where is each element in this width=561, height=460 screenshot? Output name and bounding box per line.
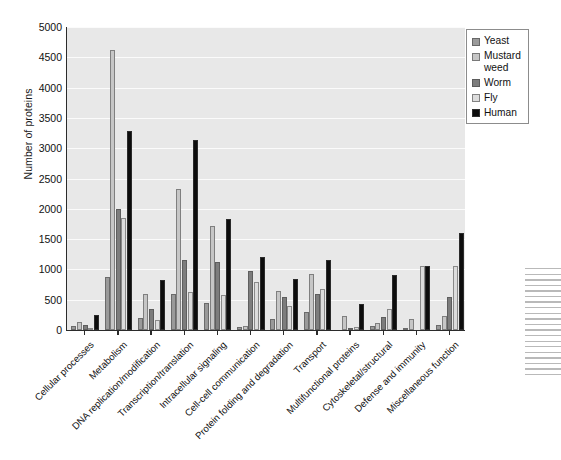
bar (116, 209, 121, 330)
bar (436, 325, 441, 330)
bar (77, 322, 82, 330)
bar (453, 266, 458, 330)
bar (88, 328, 93, 330)
legend-label: Human (484, 107, 517, 119)
bar (160, 280, 165, 330)
bar-series-container (67, 27, 465, 330)
x-tick-label: Transport (291, 339, 328, 376)
y-axis-tick-labels: 0500100015002000250030003500400045005000 (16, 20, 62, 340)
legend-item[interactable]: Fly (472, 92, 521, 104)
x-tick-mark (150, 331, 151, 335)
bar (276, 291, 281, 330)
bar (248, 271, 253, 330)
chart-legend: YeastMustard weedWormFlyHuman (466, 29, 529, 124)
x-tick-mark (217, 331, 218, 335)
chart-figure: Number of proteins 050010001500200025003… (0, 0, 561, 460)
bar (270, 319, 275, 330)
bar (176, 189, 181, 330)
legend-swatch-icon (472, 79, 480, 87)
bar (260, 257, 265, 330)
x-tick-label: Miscellaneous function (384, 339, 460, 415)
bar-group (270, 27, 297, 330)
x-tick-label: Protein folding and degradation (193, 339, 295, 441)
x-tick-label: Defense and immunity (352, 339, 427, 414)
legend-item[interactable]: Human (472, 107, 521, 119)
bar (182, 260, 187, 330)
legend-label: Mustard weed (484, 50, 521, 73)
x-tick-label: Cell-cell communication (182, 339, 261, 418)
x-tick-label: Intracellular signaling (157, 339, 229, 411)
legend-item[interactable]: Yeast (472, 35, 521, 47)
legend-swatch-icon (472, 38, 480, 46)
x-tick-mark (250, 331, 251, 335)
legend-item[interactable]: Worm (472, 77, 521, 89)
bar (110, 50, 115, 330)
bar (420, 266, 425, 330)
bar-group (171, 27, 198, 330)
bar (105, 277, 110, 330)
y-tick-label: 1500 (16, 233, 62, 245)
bar (375, 323, 380, 330)
bar-group (403, 27, 430, 330)
bar (293, 279, 298, 330)
bar-group (370, 27, 397, 330)
bar (71, 326, 76, 330)
x-tick-label: Metabolism (87, 339, 129, 381)
bar (387, 309, 392, 330)
x-tick-mark (416, 331, 417, 335)
bar-group (204, 27, 231, 330)
bar (403, 328, 408, 330)
bar (304, 312, 309, 330)
y-tick-label: 1000 (16, 263, 62, 275)
bar (127, 131, 132, 330)
bar-group (304, 27, 331, 330)
bar (193, 140, 198, 330)
x-tick-mark (349, 331, 350, 335)
bar-group (105, 27, 132, 330)
legend-item[interactable]: Mustard weed (472, 50, 521, 73)
bar (221, 295, 226, 330)
bar-group (71, 27, 98, 330)
bar (143, 294, 148, 330)
y-tick-label: 500 (16, 294, 62, 306)
legend-swatch-icon (472, 53, 480, 61)
legend-label: Fly (484, 92, 498, 104)
bar (320, 289, 325, 330)
bar (425, 266, 430, 330)
bar (188, 292, 193, 330)
bar (210, 226, 215, 330)
bar (243, 326, 248, 330)
x-tick-label: DNA replication/modification (70, 339, 163, 432)
x-tick-mark (117, 331, 118, 335)
x-tick-mark (184, 331, 185, 335)
bar (254, 282, 259, 330)
bar (447, 297, 452, 330)
bar (226, 219, 231, 330)
bar (204, 303, 209, 330)
bar (409, 319, 414, 330)
legend-swatch-icon (472, 94, 480, 102)
y-tick-label: 5000 (16, 21, 62, 33)
y-tick-label: 0 (16, 324, 62, 336)
bar (381, 317, 386, 330)
plot-area (66, 27, 465, 331)
y-tick-label: 2000 (16, 203, 62, 215)
bar-group (337, 27, 364, 330)
legend-label: Worm (484, 77, 511, 89)
legend-swatch-icon (472, 109, 480, 117)
bar (94, 315, 99, 330)
x-tick-mark (449, 331, 450, 335)
bar (121, 218, 126, 330)
bar (282, 297, 287, 330)
y-tick-label: 3500 (16, 112, 62, 124)
y-tick-label: 4000 (16, 82, 62, 94)
bar-group (237, 27, 264, 330)
bar-group (436, 27, 463, 330)
x-tick-label: Transcription/translation (115, 339, 195, 419)
bar (309, 274, 314, 330)
bar (370, 326, 375, 330)
bar (348, 328, 353, 330)
bar (354, 327, 359, 330)
bar (359, 304, 364, 330)
bar (442, 316, 447, 330)
